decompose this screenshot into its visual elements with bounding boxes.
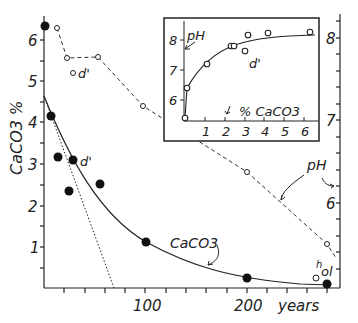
chart: 6 5 4 3 2 1 CaCO3 % 8 7 6 100 200 years xyxy=(0,0,358,323)
svg-text:4: 4 xyxy=(261,124,269,139)
svg-text:1: 1 xyxy=(202,124,210,139)
ph-label-arrow-left xyxy=(281,175,304,200)
svg-text:d': d' xyxy=(78,66,90,81)
y-axis-unit: % xyxy=(8,101,26,115)
svg-text:ol: ol xyxy=(321,264,333,279)
svg-text:d': d' xyxy=(80,154,92,169)
svg-text:6: 6 xyxy=(301,124,309,139)
svg-text:3: 3 xyxy=(28,156,38,174)
svg-text:100: 100 xyxy=(133,297,162,315)
svg-text:200: 200 xyxy=(234,297,263,315)
svg-text:3: 3 xyxy=(242,124,250,139)
svg-text:4: 4 xyxy=(28,114,38,132)
svg-text:7: 7 xyxy=(169,63,178,78)
svg-text:5: 5 xyxy=(28,73,38,91)
svg-text:CaCO3: CaCO3 xyxy=(170,235,218,251)
svg-text:6: 6 xyxy=(28,32,38,50)
caco3-initial-slope xyxy=(44,96,114,288)
svg-text:5: 5 xyxy=(281,124,289,139)
svg-text:d': d' xyxy=(249,56,261,71)
svg-text:years: years xyxy=(277,297,319,315)
svg-text:pH: pH xyxy=(186,28,205,43)
left-axis-labels: 6 5 4 3 2 1 xyxy=(28,32,40,257)
svg-text:7: 7 xyxy=(326,112,336,130)
inset-chart: 8 7 6 1 2 3 4 5 6 % CaCO3 pH d' xyxy=(164,18,319,141)
svg-text:8: 8 xyxy=(326,30,336,48)
svg-text:2: 2 xyxy=(222,124,230,139)
ph-label-arrow-right xyxy=(322,178,334,188)
svg-text:2: 2 xyxy=(28,198,38,216)
y-axis-title: CaCO3 xyxy=(7,120,26,175)
x-axis-labels: 100 200 years xyxy=(133,297,319,315)
svg-text:1: 1 xyxy=(30,239,40,257)
svg-text:6: 6 xyxy=(169,93,177,108)
svg-text:8: 8 xyxy=(169,33,177,48)
svg-text:% CaCO3: % CaCO3 xyxy=(239,104,300,119)
svg-text:6: 6 xyxy=(326,195,336,213)
svg-text:pH: pH xyxy=(306,157,327,173)
